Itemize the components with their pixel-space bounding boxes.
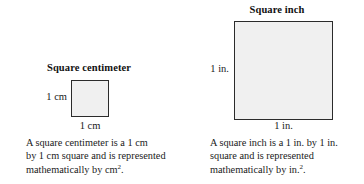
dimension-label-bottom-inch: 1 in. bbox=[252, 120, 315, 132]
caption-line-text: mathematically by in. bbox=[210, 164, 300, 175]
caption-line: mathematically by cm2. bbox=[26, 163, 186, 176]
caption-line: A square inch is a 1 in. by 1 in. bbox=[210, 136, 364, 149]
panel-square-inch: Square inch 1 in. 1 in. A square inch is… bbox=[190, 0, 364, 184]
caption-line: by 1 cm square and is represented bbox=[26, 149, 186, 162]
square-shape-inch bbox=[234, 21, 333, 120]
dimension-label-bottom-centimeter: 1 cm bbox=[63, 120, 117, 132]
caption-line: mathematically by in.2. bbox=[210, 163, 364, 176]
caption-square-inch: A square inch is a 1 in. by 1 in. square… bbox=[210, 136, 364, 176]
dimension-label-left-centimeter: 1 cm bbox=[24, 91, 67, 103]
square-shape-centimeter bbox=[71, 80, 109, 117]
caption-terminator: . bbox=[303, 164, 306, 175]
dimension-label-left-inch: 1 in. bbox=[190, 63, 229, 75]
panel-heading-square-inch: Square inch bbox=[190, 4, 364, 16]
area-units-figure: Square centimeter 1 cm 1 cm A square cen… bbox=[0, 0, 364, 184]
panel-square-centimeter: Square centimeter 1 cm 1 cm A square cen… bbox=[0, 0, 190, 184]
caption-line: A square centimeter is a 1 cm bbox=[26, 136, 186, 149]
caption-square-centimeter: A square centimeter is a 1 cm by 1 cm sq… bbox=[26, 136, 186, 176]
caption-line: square and is represented bbox=[210, 149, 364, 162]
panel-heading-square-centimeter: Square centimeter bbox=[0, 62, 178, 74]
caption-line-text: mathematically by cm bbox=[26, 164, 118, 175]
caption-terminator: . bbox=[121, 164, 124, 175]
